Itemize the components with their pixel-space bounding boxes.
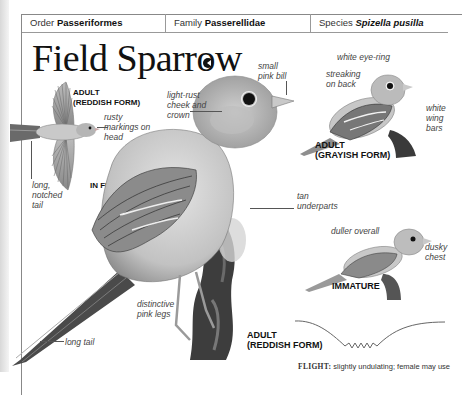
label-duller-overall: duller overall — [331, 226, 379, 236]
flight-description: FLIGHT: slightly undulating; female may … — [298, 362, 450, 371]
leader-line — [286, 81, 287, 95]
grayish-caption: ADULT (GRAYISH FORM) — [315, 140, 390, 160]
main-bird-illustration — [0, 60, 300, 372]
immature-caption: IMMATURE — [332, 281, 380, 291]
label-long-tail: long tail — [65, 337, 95, 347]
order-label: Order — [30, 17, 54, 28]
taxonomy-bar: Order Passeriformes Family Passerellidae… — [22, 14, 448, 33]
taxonomy-order: Order Passeriformes — [22, 14, 166, 32]
order-value: Passeriformes — [57, 17, 122, 28]
label-tan-underparts: tan underparts — [297, 191, 349, 211]
family-label: Family — [174, 17, 202, 28]
leader-line — [250, 208, 294, 209]
label-dusky-chest: dusky chest — [425, 242, 449, 262]
species-value: Spizella pusilla — [355, 17, 423, 28]
label-streaking-on-back: streaking on back — [326, 69, 368, 89]
flight-text: slightly undulating; female may use — [333, 362, 450, 371]
grayish-caption-line2: (GRAYISH FORM) — [315, 150, 390, 160]
flight-pattern-diagram — [295, 318, 445, 358]
family-value: Passerellidae — [205, 17, 266, 28]
taxonomy-species: Species Spizella pusilla — [311, 14, 448, 32]
species-label: Species — [319, 17, 353, 28]
label-white-eye-ring: white eye-ring — [337, 52, 390, 62]
label-small-pink-bill: small pink bill — [258, 61, 292, 81]
leader-line — [190, 111, 222, 112]
leader-line — [40, 341, 64, 342]
taxonomy-family: Family Passerellidae — [166, 14, 311, 32]
grayish-caption-line1: ADULT — [315, 140, 390, 150]
flight-label: FLIGHT: — [298, 362, 331, 371]
label-pink-legs: distinctive pink legs — [137, 299, 189, 319]
label-white-wing-bars: white wing bars — [426, 103, 448, 133]
label-light-rust-cheek: light-rust cheek and crown — [167, 90, 209, 120]
